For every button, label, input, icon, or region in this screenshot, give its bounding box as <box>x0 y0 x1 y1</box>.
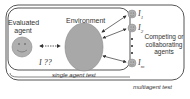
ellipsis-dots <box>131 38 133 54</box>
caption-line3: agents <box>144 49 184 56</box>
agent-2-label: I2 <box>138 24 143 34</box>
single-agent-test-label: single agent test <box>52 72 96 78</box>
evaluated-agent-label-line1: Evaluated <box>8 19 38 26</box>
agent-m-smiley-icon <box>128 59 136 67</box>
agent-m-label: Im <box>138 59 144 69</box>
agent-2-smiley-icon <box>128 24 136 32</box>
evaluated-agent-label-line2: agent <box>8 27 38 34</box>
evaluated-agent-label: Evaluated agent <box>8 19 38 34</box>
other-agents-caption: Competing or collaborating agents <box>144 34 184 56</box>
interaction-label: I ?? <box>39 59 52 67</box>
agent-1-label: I1 <box>138 10 143 20</box>
agent-1-arrow <box>102 16 126 32</box>
environment-ellipse <box>65 23 103 71</box>
multiagent-test-label: multiagent test <box>133 84 172 90</box>
agent-2-arrow <box>103 29 126 38</box>
caption-line1: Competing or <box>144 34 184 41</box>
agent-1-smiley-icon <box>128 10 136 18</box>
environment-label: Environment <box>66 17 104 24</box>
agent-m-arrow <box>103 56 126 62</box>
evaluated-agent-smiley-icon <box>12 37 32 57</box>
